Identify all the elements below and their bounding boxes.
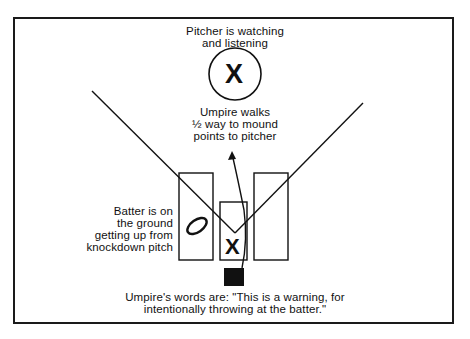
- umpire-words-line1: Umpire's words are: "This is a warning, …: [90, 291, 380, 303]
- batter-label: Batter is on the ground getting up from …: [60, 205, 173, 253]
- catcher-x-marker: X: [225, 235, 240, 259]
- batter-line3: getting up from: [60, 229, 173, 241]
- umpire-words-line2: intentionally throwing at the batter.": [90, 303, 380, 315]
- umpire-walk-line3: points to pitcher: [150, 130, 320, 142]
- batter-line1: Batter is on: [60, 205, 173, 217]
- umpire-walk-label: Umpire walks ½ way to mound points to pi…: [150, 106, 320, 142]
- umpire-words-label: Umpire's words are: "This is a warning, …: [90, 291, 380, 315]
- right-batters-box: [254, 173, 288, 260]
- arrowhead-icon: [228, 151, 236, 160]
- umpire-square-icon: [224, 268, 244, 286]
- baseball-field-diagram: [0, 0, 470, 339]
- batter-line4: knockdown pitch: [60, 241, 173, 253]
- pitcher-x-marker: X: [225, 60, 243, 88]
- left-batters-box: [179, 173, 213, 260]
- batter-line2: the ground: [60, 217, 173, 229]
- pitcher-label: Pitcher is watching and listening: [150, 25, 320, 49]
- umpire-walk-line2: ½ way to mound: [150, 118, 320, 130]
- pitcher-label-line2: and listening: [150, 37, 320, 49]
- umpire-walk-line1: Umpire walks: [150, 106, 320, 118]
- batter-ellipse-icon: [185, 215, 210, 237]
- pitcher-label-line1: Pitcher is watching: [150, 25, 320, 37]
